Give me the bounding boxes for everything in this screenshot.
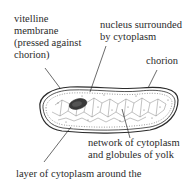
label-network-1: network of cytoplasm — [88, 137, 180, 149]
cytoplasm-layer — [46, 93, 172, 127]
label-chorion: chorion — [146, 55, 178, 67]
label-vitelline-2: membrane — [14, 25, 58, 37]
leader-layer — [44, 127, 71, 162]
leader-chorion — [148, 70, 157, 88]
label-network-2: and globules of yolk — [88, 149, 174, 161]
yolk-network — [52, 98, 166, 122]
label-nucleus-1: nucleus surrounded — [100, 19, 182, 31]
label-nucleus-2: by cytoplasm — [100, 31, 156, 43]
label-vitelline-3: (pressed against — [14, 37, 81, 49]
leader-nucleus — [90, 46, 106, 92]
label-vitelline-1: vitelline — [14, 13, 48, 25]
label-layer-1: layer of cytoplasm around the — [16, 168, 141, 180]
leader-network — [122, 109, 130, 138]
leader-vitelline — [45, 68, 60, 88]
label-vitelline-4: chorion) — [14, 49, 50, 61]
